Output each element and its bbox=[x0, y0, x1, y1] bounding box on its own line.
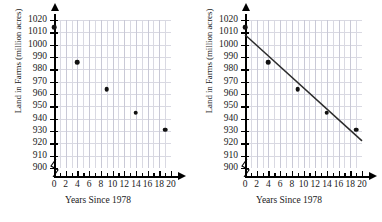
x-axis-tick bbox=[165, 173, 166, 178]
y-axis-tick bbox=[241, 106, 249, 107]
x-tick-label: 14 bbox=[322, 179, 332, 189]
data-point bbox=[325, 110, 330, 115]
y-axis-tick bbox=[241, 143, 249, 144]
x-axis-tick bbox=[153, 173, 154, 178]
y-tick-label: 1010 bbox=[28, 28, 47, 38]
x-axis-tick bbox=[130, 173, 131, 178]
x-tick-label: 0 bbox=[243, 179, 248, 189]
y-axis-tick bbox=[50, 106, 58, 107]
x-tick-label: 4 bbox=[75, 179, 80, 189]
x-tick-label: 12 bbox=[310, 179, 320, 189]
y-tick-label: 940 bbox=[33, 114, 47, 124]
y-tick-label: 900 bbox=[33, 163, 47, 173]
data-point bbox=[354, 127, 359, 132]
x-tick-label: 2 bbox=[63, 179, 68, 189]
y-axis-tick bbox=[241, 32, 249, 33]
y-axis-tick bbox=[241, 119, 249, 120]
x-axis-tick bbox=[339, 171, 340, 177]
y-axis-tick bbox=[241, 20, 249, 21]
x-axis-tick bbox=[118, 173, 119, 178]
x-tick-label: 10 bbox=[108, 179, 118, 189]
x-axis-tick bbox=[321, 173, 322, 178]
x-tick-label: 8 bbox=[98, 179, 103, 189]
y-axis-arrow-icon bbox=[242, 3, 250, 11]
x-axis-tick bbox=[171, 171, 172, 177]
x-axis-tick bbox=[257, 171, 258, 177]
x-tick-label: 6 bbox=[87, 179, 92, 189]
y-tick-label: 990 bbox=[33, 52, 47, 62]
x-axis-tick bbox=[113, 171, 114, 177]
y-tick-label: 950 bbox=[224, 102, 238, 112]
x-tick-label: 8 bbox=[289, 179, 294, 189]
x-tick-label: 4 bbox=[266, 179, 271, 189]
trend-line-layer bbox=[54, 20, 171, 168]
y-tick-label: 1000 bbox=[28, 40, 47, 50]
x-axis-tick bbox=[251, 173, 252, 178]
y-axis-tick bbox=[50, 168, 58, 169]
y-tick-label: 920 bbox=[33, 139, 47, 149]
data-point bbox=[266, 60, 271, 65]
line-of-best-fit bbox=[245, 35, 362, 141]
x-axis-tick bbox=[292, 171, 293, 177]
x-axis-tick bbox=[356, 173, 357, 178]
y-axis-tick bbox=[50, 143, 58, 144]
x-axis-tick bbox=[280, 171, 281, 177]
y-tick-label: 980 bbox=[224, 65, 238, 75]
x-axis-arrow-icon bbox=[369, 172, 377, 180]
x-tick-label: 18 bbox=[155, 179, 165, 189]
x-axis-tick bbox=[72, 173, 73, 178]
x-axis-tick bbox=[83, 173, 84, 178]
data-point bbox=[134, 110, 139, 115]
y-axis-tick bbox=[50, 45, 58, 46]
two-panel-scatter-figure: Land in Farms (million acres) 9009109209… bbox=[0, 0, 382, 222]
x-tick-label: 12 bbox=[119, 179, 129, 189]
y-axis-tick bbox=[50, 69, 58, 70]
y-axis-tick bbox=[50, 20, 58, 21]
data-point bbox=[163, 127, 168, 132]
y-tick-label: 930 bbox=[33, 126, 47, 136]
x-tick-label: 20 bbox=[357, 179, 367, 189]
trend-line-layer bbox=[245, 20, 362, 168]
x-axis-tick bbox=[89, 171, 90, 177]
x-axis-tick bbox=[286, 173, 287, 178]
x-tick-label: 2 bbox=[254, 179, 259, 189]
y-tick-label: 900 bbox=[224, 163, 238, 173]
x-axis-tick bbox=[333, 173, 334, 178]
data-point bbox=[52, 25, 57, 30]
x-tick-label: 16 bbox=[334, 179, 344, 189]
data-point bbox=[104, 87, 109, 92]
x-axis-tick bbox=[142, 173, 143, 178]
x-axis-tick bbox=[101, 171, 102, 177]
x-axis-tick bbox=[315, 171, 316, 177]
y-axis-tick bbox=[241, 57, 249, 58]
x-tick-label-group: 02468101214161820 bbox=[54, 179, 179, 191]
x-tick-label: 6 bbox=[278, 179, 283, 189]
plot-area bbox=[54, 20, 171, 176]
y-axis-tick bbox=[241, 131, 249, 132]
y-axis-tick bbox=[241, 94, 249, 95]
y-tick-label: 940 bbox=[224, 114, 238, 124]
plot-area bbox=[245, 20, 362, 176]
x-axis-tick bbox=[298, 173, 299, 178]
x-axis-tick bbox=[136, 171, 137, 177]
y-tick-label: 1000 bbox=[219, 40, 238, 50]
y-tick-label: 1020 bbox=[28, 15, 47, 25]
y-tick-label: 920 bbox=[224, 139, 238, 149]
y-tick-label: 960 bbox=[224, 89, 238, 99]
panel-scatter-plot: Land in Farms (million acres) 9009109209… bbox=[0, 0, 191, 222]
y-axis-tick bbox=[241, 168, 249, 169]
y-axis-tick bbox=[50, 131, 58, 132]
x-tick-label: 18 bbox=[346, 179, 356, 189]
y-tick-label-group: 9009109209309409509609709809901000101010… bbox=[205, 20, 238, 156]
y-axis-tick bbox=[241, 82, 249, 83]
y-axis-arrow-icon bbox=[51, 3, 59, 11]
x-axis-tick bbox=[54, 171, 55, 177]
y-tick-label: 990 bbox=[224, 52, 238, 62]
y-tick-label: 910 bbox=[33, 151, 47, 161]
x-axis-tick bbox=[95, 173, 96, 178]
x-axis-title: Years Since 1978 bbox=[205, 195, 373, 205]
data-point bbox=[243, 25, 248, 30]
x-axis-tick bbox=[263, 173, 264, 178]
x-tick-label: 14 bbox=[131, 179, 141, 189]
x-axis-tick bbox=[245, 171, 246, 177]
